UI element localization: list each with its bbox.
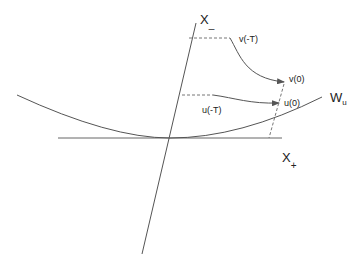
v-minus-t-label: v(-T) xyxy=(239,34,258,44)
u-minus-t-label: u(-T) xyxy=(202,105,222,115)
diagram-canvas: X_ v(-T) v(0) u(0) u(-T) Wu X+ xyxy=(0,0,362,269)
u-zero-label: u(0) xyxy=(284,98,300,108)
x-plus-label: X+ xyxy=(282,150,297,171)
v-zero-label: v(0) xyxy=(289,74,305,84)
u-trajectory xyxy=(213,95,279,103)
unstable-manifold-curve xyxy=(17,95,322,138)
v-zero-projection-dashed xyxy=(269,84,284,138)
w-u-label: Wu xyxy=(330,90,347,107)
x-minus-label: X_ xyxy=(200,12,215,30)
v-trajectory xyxy=(230,38,284,82)
